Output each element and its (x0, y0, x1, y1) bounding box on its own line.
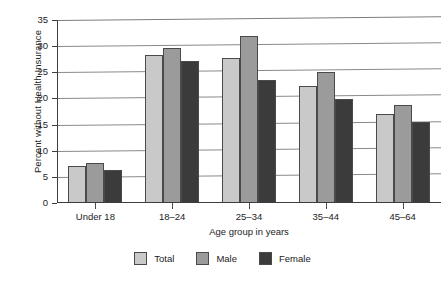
bar (86, 163, 104, 203)
plot-area: 05101520253035 Under 1818–2425–3435–4445… (57, 20, 441, 203)
x-axis-title: Age group in years (57, 226, 441, 237)
y-tick-label: 5 (2, 171, 48, 182)
bar (240, 36, 258, 203)
x-tick-mark (403, 203, 404, 209)
bar-group (299, 20, 353, 203)
x-tick-mark (95, 203, 96, 209)
bar (376, 114, 394, 203)
y-tick-mark (52, 203, 57, 204)
y-tick-label: 10 (2, 145, 48, 156)
bar-groups-layer (57, 20, 441, 203)
legend-swatch (259, 252, 272, 265)
legend-label: Female (279, 253, 311, 264)
y-axis-line (57, 20, 58, 203)
bar-chart-figure: Percent without Health Insurance 0510152… (0, 0, 445, 287)
bar (412, 122, 430, 203)
bar-group (222, 20, 276, 203)
y-tick-label: 20 (2, 92, 48, 103)
x-tick-mark (172, 203, 173, 209)
x-tick-mark (249, 203, 250, 209)
bar-group (376, 20, 430, 203)
y-tick-label: 35 (2, 14, 48, 25)
legend-item: Male (196, 252, 237, 265)
legend-label: Male (216, 253, 237, 264)
bar (335, 99, 353, 203)
bar (222, 58, 240, 203)
x-tick-label: 45–64 (348, 211, 445, 222)
y-tick-label: 15 (2, 119, 48, 130)
y-tick-label: 0 (2, 197, 48, 208)
legend-item: Female (259, 252, 311, 265)
bar-group (68, 20, 122, 203)
bar (181, 61, 199, 203)
bar (394, 105, 412, 203)
bar (317, 72, 335, 203)
bar-group (145, 20, 199, 203)
legend-swatch (196, 252, 209, 265)
legend-swatch (134, 252, 147, 265)
bar (104, 170, 122, 203)
bar (163, 48, 181, 203)
bar (68, 166, 86, 203)
legend-label: Total (154, 253, 174, 264)
legend-item: Total (134, 252, 174, 265)
x-tick-mark (326, 203, 327, 209)
y-tick-label: 30 (2, 40, 48, 51)
chart-legend: TotalMaleFemale (0, 252, 445, 265)
bar (299, 86, 317, 203)
bar (258, 80, 276, 203)
y-tick-label: 25 (2, 66, 48, 77)
bar (145, 55, 163, 203)
